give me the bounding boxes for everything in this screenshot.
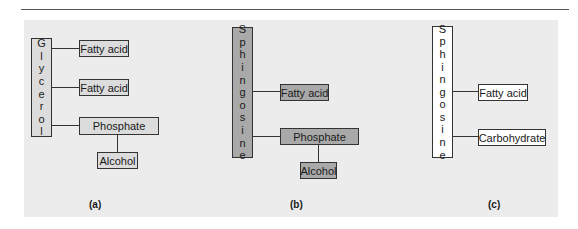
backbone-letter: l [40, 125, 42, 138]
backbone-letter: h [239, 48, 245, 61]
panel-label-a: (a) [89, 199, 101, 210]
panel-label-c: (c) [488, 199, 500, 210]
bond-line [117, 135, 118, 152]
backbone-letter: y [39, 62, 45, 75]
alcohol-box: Alcohol [97, 152, 138, 169]
backbone-letter: p [439, 35, 445, 48]
backbone-letter: g [239, 86, 245, 99]
fatty-acid-box: Fatty acid [280, 84, 329, 101]
bond-line [318, 145, 319, 162]
carbohydrate-box: Carbohydrate [478, 129, 546, 146]
top-rule [21, 9, 569, 10]
backbone-letter: s [440, 111, 446, 124]
backbone-letter: G [37, 37, 46, 50]
glycerol-backbone-box: Glycerol [31, 38, 52, 137]
backbone-letter: S [239, 23, 246, 36]
backbone-letter: i [241, 61, 243, 74]
backbone-letter: S [439, 23, 446, 36]
backbone-letter: n [439, 73, 445, 86]
backbone-letter: r [40, 100, 44, 113]
fatty-acid-box: Fatty acid [478, 84, 528, 101]
bond-line [453, 136, 478, 137]
phosphate-box: Phosphate [280, 128, 359, 145]
alcohol-box: Alcohol [300, 162, 337, 179]
backbone-letter: g [439, 86, 445, 99]
bond-line [253, 91, 280, 92]
sphingosine-backbone-box: Sphingosine [432, 26, 453, 158]
backbone-letter: e [439, 149, 445, 162]
backbone-letter: n [439, 136, 445, 149]
bond-line [453, 91, 478, 92]
backbone-letter: n [239, 137, 245, 150]
backbone-letter: i [441, 123, 443, 136]
backbone-letter: n [239, 74, 245, 87]
backbone-letter: p [239, 36, 245, 49]
backbone-letter: h [439, 48, 445, 61]
backbone-letter: c [39, 75, 45, 88]
backbone-letter: e [239, 149, 245, 162]
backbone-letter: i [241, 124, 243, 137]
fatty-acid-box-2: Fatty acid [79, 79, 129, 96]
phosphate-box: Phosphate [79, 117, 159, 135]
backbone-letter: i [441, 61, 443, 74]
bond-line [253, 136, 280, 137]
bond-line [52, 87, 79, 88]
backbone-letter: s [240, 111, 246, 124]
bond-line [52, 48, 79, 49]
sphingosine-backbone-box: Sphingosine [232, 27, 253, 158]
backbone-letter: e [38, 88, 44, 101]
bond-line [52, 125, 79, 126]
backbone-letter: o [439, 98, 445, 111]
backbone-letter: o [38, 113, 44, 126]
backbone-letter: l [40, 50, 42, 63]
fatty-acid-box-1: Fatty acid [79, 40, 129, 57]
panel-label-b: (b) [290, 199, 303, 210]
backbone-letter: o [239, 99, 245, 112]
